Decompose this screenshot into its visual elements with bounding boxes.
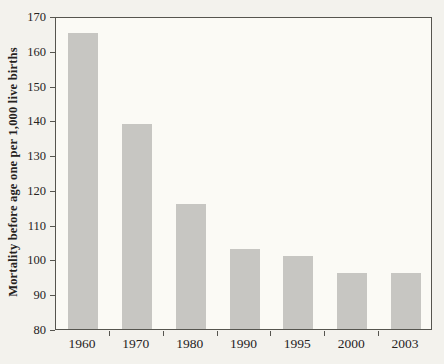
x-tick-label-1980: 1980 xyxy=(163,335,217,352)
y-tick-label-80: 80 xyxy=(12,322,46,338)
x-tick-label-2003: 2003 xyxy=(378,335,432,352)
y-tick-mark-140 xyxy=(50,121,55,122)
x-tick-mark xyxy=(217,331,218,336)
x-tick-label-1970: 1970 xyxy=(109,335,163,352)
x-tick-mark xyxy=(109,331,110,336)
x-tick-label-1990: 1990 xyxy=(217,335,271,352)
y-tick-mark-80 xyxy=(50,330,55,331)
x-tick-label-1995: 1995 xyxy=(270,335,324,352)
y-tick-label-90: 90 xyxy=(12,287,46,303)
y-tick-mark-120 xyxy=(50,191,55,192)
y-tick-mark-170 xyxy=(50,17,55,18)
y-tick-label-120: 120 xyxy=(12,183,46,199)
bar-1995 xyxy=(283,256,313,329)
y-tick-mark-150 xyxy=(50,87,55,88)
y-tick-label-100: 100 xyxy=(12,252,46,268)
y-tick-label-160: 160 xyxy=(12,44,46,60)
x-tick-label-2000: 2000 xyxy=(324,335,378,352)
bar-1990 xyxy=(230,249,260,329)
y-tick-label-170: 170 xyxy=(12,9,46,25)
bar-2000 xyxy=(337,273,367,329)
y-tick-label-150: 150 xyxy=(12,79,46,95)
bar-1970 xyxy=(122,124,152,329)
y-tick-mark-100 xyxy=(50,260,55,261)
y-tick-mark-90 xyxy=(50,295,55,296)
x-tick-mark xyxy=(270,331,271,336)
infant-mortality-bar-chart: Mortality before age one per 1,000 live … xyxy=(0,0,444,364)
x-tick-label-1960: 1960 xyxy=(55,335,109,352)
bar-2003 xyxy=(391,273,421,329)
y-tick-label-140: 140 xyxy=(12,113,46,129)
y-tick-mark-110 xyxy=(50,226,55,227)
bar-1980 xyxy=(176,204,206,329)
x-tick-mark xyxy=(324,331,325,336)
y-tick-label-110: 110 xyxy=(12,218,46,234)
bar-1960 xyxy=(68,33,98,329)
y-tick-mark-160 xyxy=(50,52,55,53)
y-tick-mark-130 xyxy=(50,156,55,157)
x-tick-mark xyxy=(378,331,379,336)
plot-area xyxy=(55,17,432,330)
x-tick-mark xyxy=(163,331,164,336)
y-tick-label-130: 130 xyxy=(12,148,46,164)
